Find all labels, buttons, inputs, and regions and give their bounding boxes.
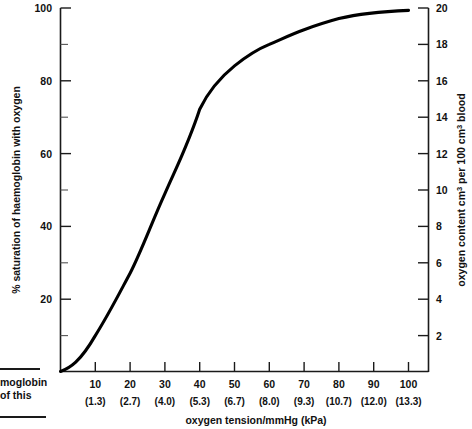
right-tick-label: 12 (436, 148, 448, 160)
right-tick-label: 8 (436, 220, 442, 232)
right-axis-tick-labels: 20 18 16 14 12 10 8 6 4 2 (436, 2, 448, 342)
left-axis-tick-labels: 100 80 60 40 20 (34, 2, 52, 305)
margin-page-fragment: moglobin of this (0, 369, 47, 417)
right-tick-label: 2 (436, 330, 442, 342)
x-tick-label-mmhg: 60 (263, 378, 275, 390)
x-tick-label-mmhg: 80 (333, 378, 345, 390)
axis-lines (61, 8, 429, 372)
x-tick-label-kpa: (1.3) (85, 396, 106, 407)
oxygen-dissociation-chart: 100 80 60 40 20 % saturation of haemoglo… (0, 0, 472, 429)
left-tick-label: 100 (34, 2, 52, 14)
left-tick-label: 40 (40, 220, 52, 232)
chart-canvas: 100 80 60 40 20 % saturation of haemoglo… (0, 0, 472, 429)
right-axis-title-part1: oxygen content cm (455, 191, 467, 287)
x-tick-label-mmhg: 70 (298, 378, 310, 390)
right-tick-label: 18 (436, 38, 448, 50)
bottom-axis-ticks (95, 362, 408, 372)
x-tick-label-mmhg: 90 (368, 378, 380, 390)
x-tick-label-mmhg: 20 (124, 378, 136, 390)
right-tick-label: 10 (436, 184, 448, 196)
oxygen-dissociation-curve (61, 10, 409, 371)
x-tick-label-mmhg: 50 (229, 378, 241, 390)
left-tick-label: 80 (40, 75, 52, 87)
x-tick-label-kpa: (5.3) (189, 396, 210, 407)
x-tick-label-mmhg: 100 (400, 378, 418, 390)
x-tick-label-kpa: (10.7) (326, 396, 352, 407)
right-tick-label: 6 (436, 257, 442, 269)
x-tick-label-mmhg: 40 (194, 378, 206, 390)
x-tick-label-mmhg: 30 (159, 378, 171, 390)
left-tick-label: 60 (40, 148, 52, 160)
left-axis-title: % saturation of haemoglobin with oxygen (10, 86, 22, 294)
left-tick-label: 20 (40, 293, 52, 305)
right-axis-title-part3: blood (455, 93, 467, 125)
x-tick-label-kpa: (6.7) (224, 396, 245, 407)
margin-note-line2: of this (0, 389, 32, 401)
x-tick-label-mmhg: 10 (89, 378, 101, 390)
right-tick-label: 20 (436, 2, 448, 14)
bottom-axis-tick-labels-kpa: (1.3) (2.7) (4.0) (5.3) (6.7) (8.0) (9.3… (85, 396, 422, 407)
right-tick-label: 14 (436, 111, 448, 123)
right-tick-label: 4 (436, 293, 442, 305)
right-tick-label: 16 (436, 75, 448, 87)
x-tick-label-kpa: (9.3) (294, 396, 315, 407)
right-axis-title-part2: per 100 cm (455, 129, 467, 187)
right-axis-ticks (418, 8, 429, 336)
margin-note-line1: moglobin (0, 376, 47, 388)
x-tick-label-kpa: (12.0) (361, 396, 387, 407)
bottom-axis-tick-labels-mmhg: 10 20 30 40 50 60 70 80 90 100 (89, 378, 417, 390)
x-tick-label-kpa: (4.0) (155, 396, 176, 407)
x-tick-label-kpa: (8.0) (259, 396, 280, 407)
right-axis-title: oxygen content cm3 per 100 cm3 blood (455, 93, 468, 286)
x-tick-label-kpa: (2.7) (120, 396, 141, 407)
bottom-axis-title: oxygen tension/mmHg (kPa) (185, 414, 326, 426)
left-axis-ticks (61, 8, 72, 336)
x-tick-label-kpa: (13.3) (395, 396, 421, 407)
